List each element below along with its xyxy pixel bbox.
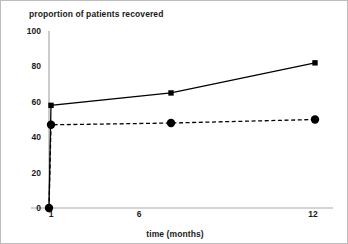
chart-plot-area xyxy=(1,1,348,244)
data-series-group xyxy=(45,60,319,212)
y-tick-label: 20 xyxy=(15,168,41,178)
data-point-marker xyxy=(167,119,175,127)
data-point-marker xyxy=(311,115,319,123)
y-tick-label: 80 xyxy=(15,61,41,71)
data-point-marker xyxy=(48,103,53,108)
series-line-circle xyxy=(49,120,315,209)
data-point-marker xyxy=(312,60,317,65)
y-tick-label: 100 xyxy=(15,26,41,36)
x-axis-title: time (months) xyxy=(1,229,348,239)
series-line-square xyxy=(49,63,315,208)
x-tick-label: 6 xyxy=(137,209,142,219)
data-point-marker xyxy=(168,90,173,95)
axis-lines xyxy=(31,31,333,208)
y-tick-label: 60 xyxy=(15,97,41,107)
y-tick-label: 0 xyxy=(15,203,41,213)
y-tick-label: 40 xyxy=(15,132,41,142)
x-tick-label: 1 xyxy=(49,209,54,219)
x-tick-label: 12 xyxy=(308,209,317,219)
chart-container: proportion of patients recovered 0204060… xyxy=(0,0,348,244)
data-point-marker xyxy=(47,121,55,129)
